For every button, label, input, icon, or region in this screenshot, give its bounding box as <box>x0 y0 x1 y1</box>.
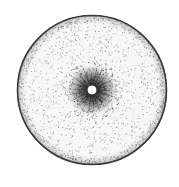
disc-image <box>0 0 179 187</box>
image-stage: Grayscale circular disc with speckled te… <box>0 0 179 187</box>
center-hole <box>87 85 97 95</box>
